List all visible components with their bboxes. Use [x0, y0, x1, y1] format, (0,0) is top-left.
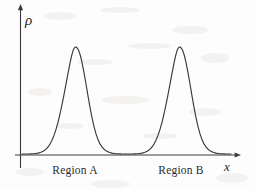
- y-axis-label: ρ: [25, 13, 32, 28]
- x-axis-label: x: [224, 160, 230, 173]
- region-b-label: Region B: [150, 165, 212, 177]
- x-axis-arrowhead-icon: [235, 152, 241, 157]
- region-a-label: Region A: [44, 165, 106, 177]
- plot-canvas: [0, 0, 255, 190]
- density-curve: [22, 47, 231, 154]
- density-figure: ρ x Region A Region B: [0, 0, 255, 190]
- y-axis-arrowhead-icon: [18, 4, 23, 10]
